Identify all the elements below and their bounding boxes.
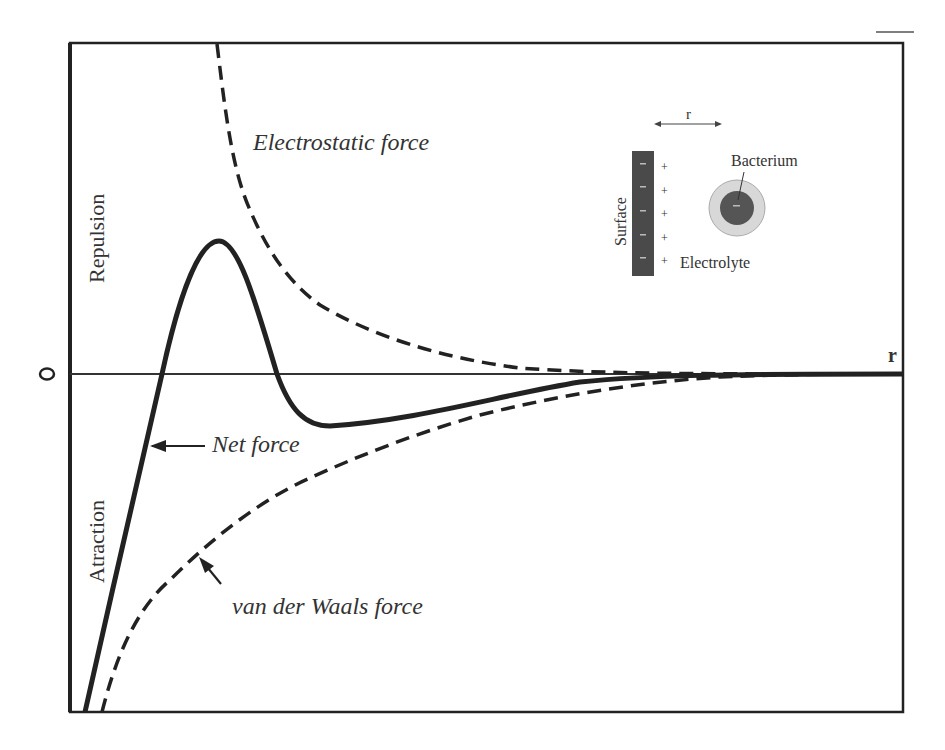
net-force-label: Net force: [211, 431, 300, 457]
bacterium-core: [720, 191, 754, 225]
repulsion-label: Repulsion: [84, 194, 109, 283]
bacterium-label: Bacterium: [731, 152, 798, 169]
van-der-waals-force-label: van der Waals force: [232, 593, 423, 619]
electrolyte-positive-charges: + + + + +: [661, 160, 668, 268]
plot-frame: [70, 43, 903, 712]
svg-text:+: +: [661, 184, 668, 198]
attraction-label: Atraction: [84, 500, 109, 583]
svg-text:+: +: [661, 231, 668, 245]
svg-text:+: +: [661, 254, 668, 268]
net-force-curve: [85, 241, 903, 712]
van-der-waals-arrow-icon: [199, 557, 221, 584]
surface-label: Surface: [612, 197, 629, 246]
electrolyte-label: Electrolyte: [680, 254, 750, 272]
inset-diagram: r Surface + + + + + Electrolyte Bacteriu…: [612, 106, 798, 276]
van-der-waals-force-curve: [102, 374, 903, 712]
zero-label: [40, 369, 54, 380]
svg-text:+: +: [661, 207, 668, 221]
bacterium-negative-charge: [733, 205, 740, 207]
electrostatic-force-curve: [217, 44, 903, 374]
electrostatic-force-label: Electrostatic force: [252, 129, 430, 155]
x-axis-label: r: [888, 344, 897, 366]
inset-distance-label: r: [686, 106, 691, 122]
force-distance-chart: r Repulsion Atraction Electrostatic forc…: [0, 0, 945, 750]
net-force-arrow-icon: [150, 440, 205, 452]
svg-text:+: +: [661, 160, 668, 174]
